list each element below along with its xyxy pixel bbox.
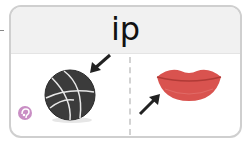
edge-mark (0, 30, 4, 31)
dashed-divider (129, 57, 131, 135)
arrow-up-right-icon (138, 92, 162, 116)
arrow-down-left-icon (88, 53, 112, 75)
lips-image (155, 67, 223, 103)
audio-icon[interactable] (17, 105, 33, 121)
card-header: ip (11, 7, 240, 54)
word-text: ip (11, 9, 240, 49)
basketball-image (42, 68, 98, 124)
